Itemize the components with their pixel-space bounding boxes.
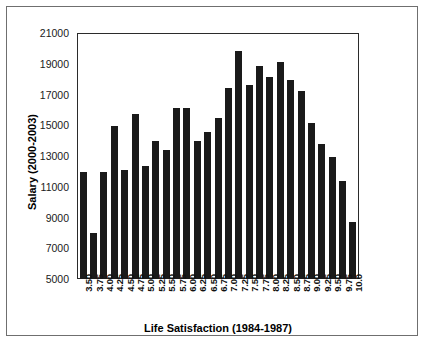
- bar-slot: [223, 34, 233, 279]
- bar-slot: [151, 34, 161, 279]
- bar-slot: [120, 34, 130, 279]
- x-tick-slot: 9.75: [337, 281, 347, 323]
- bar: [277, 62, 284, 279]
- bar: [329, 157, 336, 280]
- bar: [204, 132, 211, 279]
- x-tick-slot: 9.50: [327, 281, 337, 323]
- bar-slot: [99, 34, 109, 279]
- x-tick-slot: 3.50: [78, 281, 88, 323]
- x-tick-slot: 8.50: [286, 281, 296, 323]
- x-tick-slot: 8.75: [296, 281, 306, 323]
- x-tick-slot: 5.00: [140, 281, 150, 323]
- x-tick-slot: 4.50: [120, 281, 130, 323]
- bar-slot: [286, 34, 296, 279]
- y-axis-tick-label: 19000: [40, 59, 69, 69]
- bar-slot: [171, 34, 181, 279]
- chart-figure: Salary (2000-2003) 210001900017000150001…: [0, 0, 425, 349]
- x-tick-slot: 7.50: [244, 281, 254, 323]
- bar: [298, 91, 305, 279]
- x-axis-tick-label: 10.0: [353, 274, 364, 292]
- x-tick-slot: 8.00: [265, 281, 275, 323]
- y-axis-tick-label: 5000: [46, 274, 69, 284]
- bar: [225, 88, 232, 279]
- x-tick-slot: 9.25: [317, 281, 327, 323]
- bar: [349, 222, 356, 279]
- bar: [142, 166, 149, 279]
- y-axis-tick-label: 9000: [46, 213, 69, 223]
- bar: [80, 172, 87, 279]
- bar-slot: [192, 34, 202, 279]
- bar: [183, 108, 190, 280]
- bar-slot: [348, 34, 358, 279]
- bar-slot: [130, 34, 140, 279]
- x-tick-slot: 10.0: [348, 281, 358, 323]
- x-tick-slot: 6.50: [203, 281, 213, 323]
- x-tick-slot: 7.25: [234, 281, 244, 323]
- x-axis-tick-labels: 3.503.754.004.254.504.755.005.255.505.75…: [78, 281, 358, 323]
- x-tick-slot: 4.00: [99, 281, 109, 323]
- y-axis-tick-label: 15000: [40, 120, 69, 130]
- x-tick-slot: 9.00: [306, 281, 316, 323]
- bar: [318, 144, 325, 279]
- x-tick-slot: 7.75: [254, 281, 264, 323]
- bar: [121, 170, 128, 279]
- x-tick-slot: 6.75: [213, 281, 223, 323]
- x-tick-slot: 5.25: [151, 281, 161, 323]
- bar: [256, 66, 263, 279]
- bar-slot: [88, 34, 98, 279]
- bar: [111, 126, 118, 279]
- x-tick-slot: 6.25: [192, 281, 202, 323]
- bar: [266, 77, 273, 279]
- bar-slot: [140, 34, 150, 279]
- bar: [163, 150, 170, 279]
- y-axis-tick-label: 21000: [40, 28, 69, 38]
- bar-slot: [254, 34, 264, 279]
- y-axis-tick-labels: 2100019000170001500013000110009000700050…: [0, 0, 77, 349]
- bar-slot: [244, 34, 254, 279]
- bar-slot: [182, 34, 192, 279]
- x-tick-slot: 4.75: [130, 281, 140, 323]
- bar-slot: [203, 34, 213, 279]
- bar-slot: [327, 34, 337, 279]
- y-axis-tick-label: 11000: [41, 182, 69, 192]
- bar: [173, 108, 180, 280]
- bar-slot: [78, 34, 88, 279]
- x-tick-slot: 7.00: [223, 281, 233, 323]
- bar-slot: [109, 34, 119, 279]
- x-tick-slot: 3.75: [88, 281, 98, 323]
- bar-slot: [275, 34, 285, 279]
- y-axis-tick-label: 7000: [46, 243, 69, 253]
- bar-series: [78, 34, 358, 279]
- x-axis-title: Life Satisfaction (1984-1987): [77, 322, 359, 334]
- bar-slot: [234, 34, 244, 279]
- x-tick-slot: 6.00: [182, 281, 192, 323]
- bar: [339, 181, 346, 279]
- bar-slot: [306, 34, 316, 279]
- bar-slot: [337, 34, 347, 279]
- bar: [100, 172, 107, 279]
- x-tick-slot: 5.75: [171, 281, 181, 323]
- bar: [152, 141, 159, 279]
- bar: [235, 51, 242, 279]
- bar-slot: [317, 34, 327, 279]
- y-axis-tick-label: 17000: [40, 90, 69, 100]
- bar: [132, 114, 139, 279]
- x-tick-slot: 5.50: [161, 281, 171, 323]
- bar: [90, 233, 97, 279]
- x-tick-slot: 8.25: [275, 281, 285, 323]
- bar-slot: [296, 34, 306, 279]
- bar-slot: [213, 34, 223, 279]
- bar: [215, 118, 222, 279]
- x-tick-slot: 4.25: [109, 281, 119, 323]
- bar: [246, 85, 253, 279]
- bar: [194, 141, 201, 279]
- bar-slot: [161, 34, 171, 279]
- y-axis-tick-label: 13000: [40, 151, 69, 161]
- bar-slot: [265, 34, 275, 279]
- bar: [308, 123, 315, 279]
- bar: [287, 80, 294, 279]
